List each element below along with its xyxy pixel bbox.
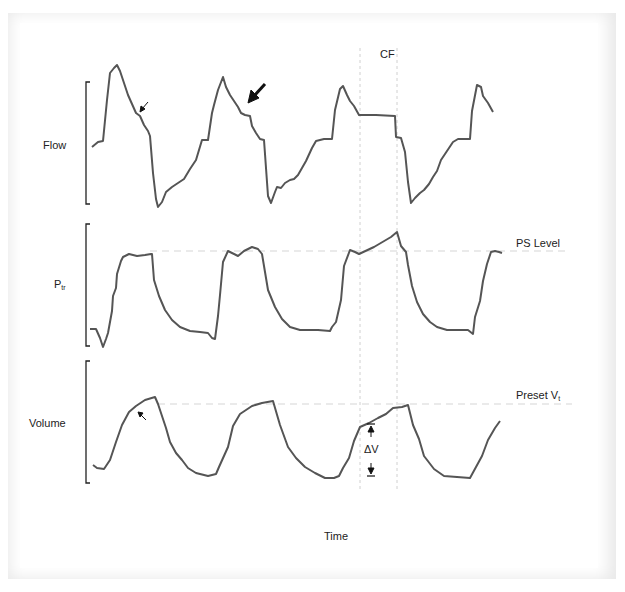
volume-arrow-icon [138,412,146,420]
pressure-label-sub: tr [61,284,65,291]
small-arrow-icon [140,102,148,112]
delta-v-label: ΔV [364,443,379,455]
axis-brackets [86,82,90,483]
flow-label: Flow [43,139,66,151]
time-axis-label: Time [324,530,348,542]
waveform-diagram [0,0,625,592]
preset-vt-label-main: Preset V [516,389,558,401]
cf-label: CF [380,48,395,60]
flow-trace [92,65,493,207]
bold-arrow-icon [248,84,265,103]
preset-vt-label: Preset Vt [516,389,560,402]
volume-trace [93,397,500,478]
pressure-label: Ptr [54,278,66,291]
volume-label: Volume [29,417,66,429]
pressure-trace [90,232,502,347]
preset-vt-label-sub: t [558,395,560,402]
ps-level-label: PS Level [516,237,560,249]
